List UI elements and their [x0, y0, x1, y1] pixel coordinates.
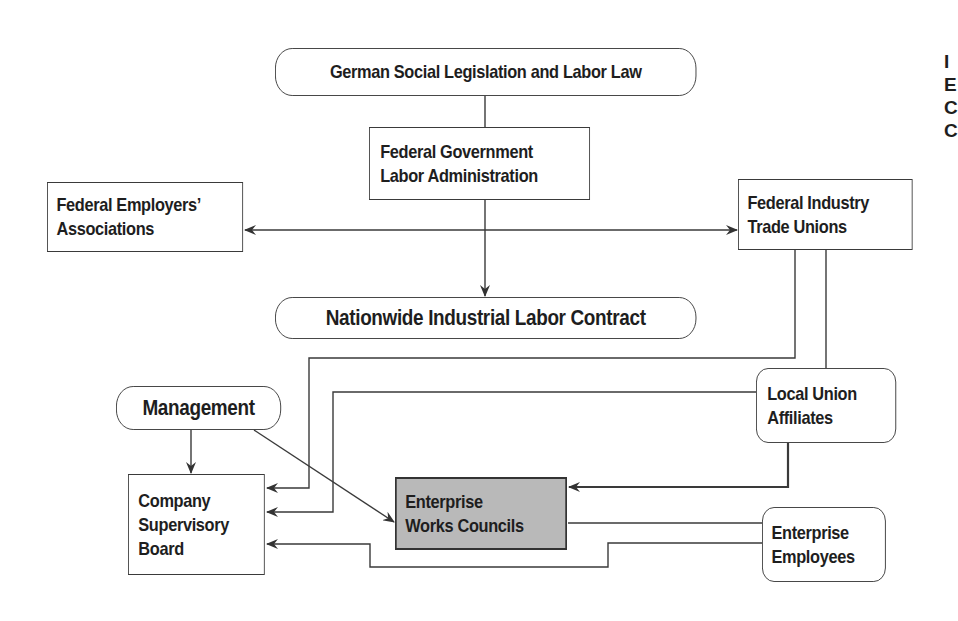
node-employers-associations: Federal Employers’ Associations — [47, 182, 243, 252]
node-federal-government-line2: Labor Administration — [380, 164, 589, 188]
cropped-edge-text: I E C C — [944, 50, 958, 142]
node-management-label: Management — [142, 396, 254, 420]
node-trade-unions-line2: Trade Unions — [747, 215, 911, 239]
cropped-letter: E — [944, 73, 958, 96]
node-employers-line2: Associations — [56, 217, 242, 241]
node-social-legislation-label: German Social Legislation and Labor Law — [330, 60, 642, 84]
node-employers-line1: Federal Employers’ — [56, 193, 242, 217]
node-board-line1: Company — [138, 489, 264, 513]
node-works-councils-line2: Works Councils — [405, 514, 565, 538]
node-works-councils-line1: Enterprise — [405, 490, 565, 514]
node-employees: Enterprise Employees — [762, 507, 886, 582]
edge-local-councils — [569, 443, 788, 487]
node-management: Management — [116, 386, 281, 430]
node-local-union-line1: Local Union — [767, 382, 895, 406]
node-board-line2: Supervisory — [138, 513, 264, 537]
node-board-line3: Board — [138, 537, 264, 561]
cropped-letter: C — [944, 119, 958, 142]
node-trade-unions-line1: Federal Industry — [747, 191, 911, 215]
node-labor-contract: Nationwide Industrial Labor Contract — [275, 297, 696, 339]
node-local-union: Local Union Affiliates — [756, 368, 896, 443]
node-federal-government-line1: Federal Government — [380, 140, 589, 164]
node-federal-government: Federal Government Labor Administration — [369, 127, 590, 200]
node-employees-line1: Enterprise — [771, 521, 885, 545]
node-supervisory-board: Company Supervisory Board — [128, 474, 265, 575]
node-social-legislation: German Social Legislation and Labor Law — [275, 48, 696, 96]
node-employees-line2: Employees — [771, 545, 885, 569]
cropped-letter: C — [944, 96, 958, 119]
edge-unions-board — [267, 250, 795, 488]
node-local-union-line2: Affiliates — [767, 406, 895, 430]
cropped-letter: I — [944, 50, 958, 73]
node-works-councils: Enterprise Works Councils — [395, 477, 567, 550]
node-labor-contract-label: Nationwide Industrial Labor Contract — [326, 306, 646, 330]
edge-management-councils — [254, 430, 394, 522]
node-trade-unions: Federal Industry Trade Unions — [738, 179, 913, 250]
